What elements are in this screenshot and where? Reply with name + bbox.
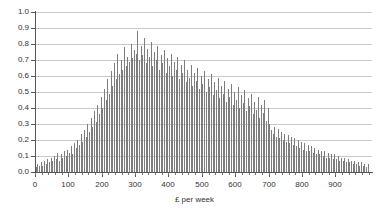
x-tick-label: 200 bbox=[87, 180, 117, 189]
x-minor-tick-mark bbox=[255, 173, 256, 175]
x-minor-tick-mark bbox=[175, 173, 176, 175]
histogram-bar bbox=[346, 162, 347, 172]
histogram-bar bbox=[187, 70, 188, 172]
x-minor-tick-mark bbox=[302, 173, 303, 175]
histogram-bar bbox=[134, 50, 135, 172]
histogram-bar bbox=[286, 142, 287, 172]
histogram-bar bbox=[209, 87, 210, 172]
histogram-bar bbox=[179, 79, 180, 172]
histogram-bar bbox=[99, 114, 100, 172]
x-minor-tick-mark bbox=[55, 173, 56, 175]
histogram-bar bbox=[291, 137, 292, 172]
histogram-bar bbox=[274, 127, 275, 172]
x-minor-tick-mark bbox=[229, 173, 230, 175]
histogram-bar bbox=[211, 74, 212, 172]
x-minor-tick-mark bbox=[289, 173, 290, 175]
histogram-bar bbox=[349, 162, 350, 172]
histogram-bar bbox=[57, 153, 58, 172]
histogram-bar bbox=[154, 52, 155, 172]
x-tick-label: 900 bbox=[320, 180, 350, 189]
x-minor-tick-mark bbox=[135, 173, 136, 175]
histogram-bar bbox=[279, 138, 280, 172]
histogram-bar bbox=[234, 92, 235, 172]
histogram-bar bbox=[132, 58, 133, 172]
x-minor-tick-mark bbox=[128, 173, 129, 175]
x-minor-tick-mark bbox=[215, 173, 216, 175]
x-minor-tick-mark bbox=[262, 173, 263, 175]
x-minor-tick-mark bbox=[329, 173, 330, 175]
y-tick-mark bbox=[31, 124, 35, 125]
x-minor-tick-mark bbox=[115, 173, 116, 175]
histogram-bar bbox=[67, 150, 68, 172]
histogram-bar bbox=[139, 60, 140, 172]
histogram-bar bbox=[117, 54, 118, 172]
y-tick-label: 0.0 bbox=[18, 168, 29, 176]
x-minor-tick-mark bbox=[35, 173, 36, 175]
histogram-bar bbox=[229, 97, 230, 172]
x-tick-label: 700 bbox=[254, 180, 284, 189]
histogram-bar bbox=[142, 55, 143, 172]
histogram-bar bbox=[177, 57, 178, 172]
histogram-bar bbox=[216, 90, 217, 172]
y-tick-mark bbox=[31, 92, 35, 93]
histogram-bar bbox=[254, 102, 255, 172]
histogram-bar bbox=[104, 89, 105, 172]
histogram-bar bbox=[284, 134, 285, 172]
x-minor-tick-mark bbox=[322, 173, 323, 175]
x-minor-tick-mark bbox=[42, 173, 43, 175]
histogram-bar bbox=[226, 102, 227, 172]
histogram-bar bbox=[127, 57, 128, 172]
y-tick-label: 0.6 bbox=[18, 72, 29, 80]
x-minor-tick-mark bbox=[82, 173, 83, 175]
histogram-bar bbox=[137, 31, 138, 172]
x-minor-tick-mark bbox=[95, 173, 96, 175]
x-minor-tick-mark bbox=[108, 173, 109, 175]
histogram-bar bbox=[124, 47, 125, 172]
histogram-bar bbox=[92, 127, 93, 172]
histogram-bar bbox=[276, 137, 277, 172]
histogram-bar bbox=[306, 151, 307, 172]
y-tick-mark bbox=[31, 28, 35, 29]
y-tick-label: 0.8 bbox=[18, 40, 29, 48]
y-axis-line bbox=[35, 11, 36, 173]
histogram-bar bbox=[172, 76, 173, 172]
histogram-bar bbox=[364, 164, 365, 172]
histogram-bar bbox=[354, 161, 355, 172]
y-tick-mark bbox=[31, 140, 35, 141]
histogram-bar bbox=[152, 66, 153, 172]
histogram-bar bbox=[122, 70, 123, 172]
x-tick-label: 400 bbox=[153, 180, 183, 189]
y-tick-label: 1.0 bbox=[18, 8, 29, 16]
x-minor-tick-mark bbox=[155, 173, 156, 175]
x-minor-tick-mark bbox=[349, 173, 350, 175]
histogram-bar bbox=[184, 60, 185, 172]
x-tick-label: 600 bbox=[220, 180, 250, 189]
histogram-bar bbox=[164, 50, 165, 172]
histogram-bar bbox=[368, 164, 369, 172]
histogram-bar bbox=[294, 138, 295, 172]
histogram-bar bbox=[281, 132, 282, 172]
y-tick-mark bbox=[31, 12, 35, 13]
y-tick-mark bbox=[31, 108, 35, 109]
histogram-bar bbox=[271, 130, 272, 172]
x-minor-tick-mark bbox=[242, 173, 243, 175]
histogram-bars bbox=[35, 12, 373, 172]
x-tick-label: 800 bbox=[287, 180, 317, 189]
histogram-bar bbox=[89, 132, 90, 172]
histogram-bar bbox=[316, 154, 317, 172]
histogram-bar bbox=[351, 161, 352, 172]
histogram-bar bbox=[329, 158, 330, 172]
x-minor-tick-mark bbox=[75, 173, 76, 175]
x-minor-tick-mark bbox=[309, 173, 310, 175]
x-minor-tick-mark bbox=[342, 173, 343, 175]
histogram-bar bbox=[219, 98, 220, 172]
histogram-bar bbox=[236, 100, 237, 172]
x-minor-tick-mark bbox=[148, 173, 149, 175]
histogram-bar bbox=[84, 130, 85, 172]
histogram-bar bbox=[319, 154, 320, 172]
histogram-bar bbox=[49, 162, 50, 172]
histogram-bar bbox=[206, 92, 207, 172]
histogram-bar bbox=[251, 94, 252, 172]
histogram-bar bbox=[97, 105, 98, 172]
histogram-bar bbox=[144, 38, 145, 172]
